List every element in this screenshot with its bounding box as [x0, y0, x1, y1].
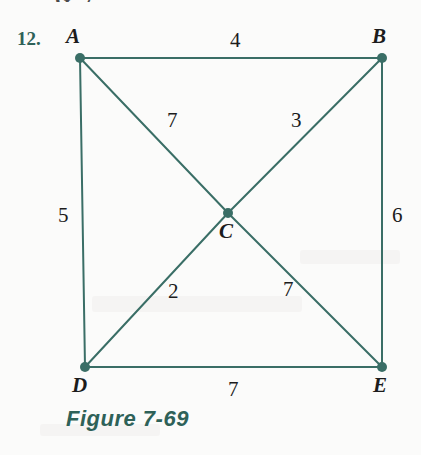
edge-weight-de: 7 [228, 379, 239, 400]
edge-ce [228, 213, 382, 367]
node-label-e: E [373, 375, 387, 396]
node-b [377, 53, 387, 63]
edge-cd [85, 213, 228, 367]
edge-weight-bc: 3 [291, 110, 302, 131]
node-label-a: A [66, 26, 80, 47]
figure-page: G 7 12. 45677327ABCDE Figure 7-69 [0, 0, 421, 455]
node-label-d: D [72, 375, 87, 396]
node-e [377, 362, 387, 372]
edge-weight-ce: 7 [283, 279, 294, 300]
edge-weight-ad: 5 [58, 205, 69, 226]
edge-weight-cd: 2 [168, 281, 179, 302]
edge-ad [80, 58, 85, 367]
node-c [223, 208, 233, 218]
weighted-graph-diagram [0, 0, 421, 455]
figure-caption: Figure 7-69 [66, 406, 189, 432]
node-label-b: B [372, 26, 386, 47]
edge-weight-ac: 7 [167, 110, 178, 131]
node-label-c: C [219, 221, 233, 242]
edge-weight-ab: 4 [230, 30, 241, 51]
edge-weight-be: 6 [392, 205, 403, 226]
edge-ac [80, 58, 228, 213]
edge-bc [228, 58, 382, 213]
node-d [80, 362, 90, 372]
node-a [75, 53, 85, 63]
